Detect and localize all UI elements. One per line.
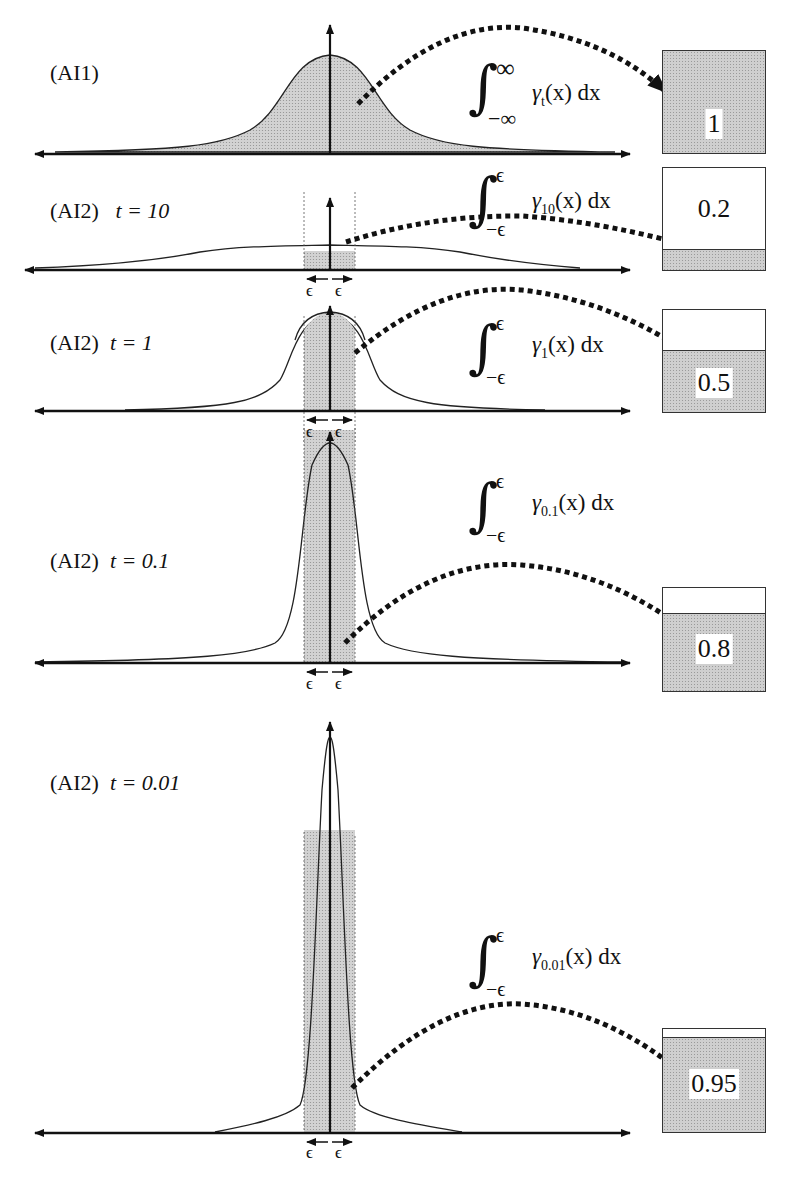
epsilon-label: ϵ bbox=[335, 422, 342, 442]
result-box-t10: 0.2 bbox=[662, 167, 766, 271]
panel-label-t01: (AI2) t = 0.1 bbox=[50, 548, 169, 574]
dotted-arrow bbox=[345, 564, 688, 643]
dotted-arrow bbox=[352, 1004, 690, 1088]
epsilon-label: ϵ bbox=[306, 674, 313, 694]
epsilon-label: ϵ bbox=[335, 674, 342, 694]
epsilon-label: ϵ bbox=[306, 281, 313, 301]
panel-t1 bbox=[35, 289, 690, 442]
result-box-t01: 0.8 bbox=[662, 587, 766, 692]
result-box-t001: 0.95 bbox=[662, 1028, 766, 1133]
panel-label-ai1: (AI1) bbox=[50, 60, 99, 86]
panel-label-t1: (AI2) t = 1 bbox=[50, 330, 153, 356]
result-box-t1: 0.5 bbox=[662, 309, 766, 413]
epsilon-label: ϵ bbox=[306, 1143, 313, 1163]
epsilon-label: ϵ bbox=[335, 281, 342, 301]
dotted-arrow bbox=[355, 289, 690, 354]
panel-label-t10: (AI2) t = 10 bbox=[50, 198, 169, 224]
epsilon-label: ϵ bbox=[335, 1143, 342, 1163]
epsilon-label: ϵ bbox=[306, 422, 313, 442]
panel-label-t001: (AI2) t = 0.01 bbox=[50, 770, 180, 796]
curve-ai1 bbox=[55, 55, 615, 152]
result-box-ai1: 1 bbox=[662, 50, 766, 154]
